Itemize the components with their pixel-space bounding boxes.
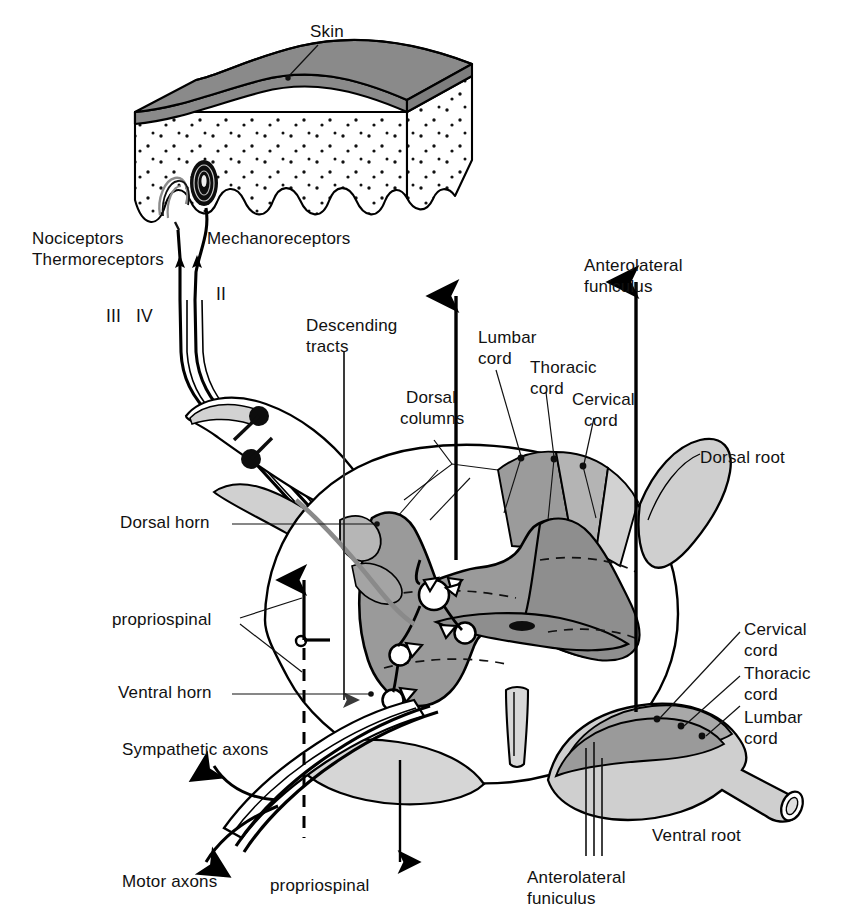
- label-cervical-cord-right-2: cord: [744, 641, 778, 661]
- label-lumbar-cord-top-1: Lumbar: [478, 328, 537, 348]
- label-fiber-class-iv: IV: [136, 306, 153, 327]
- label-ventral-horn: Ventral horn: [118, 683, 212, 703]
- label-descending-tracts-2: tracts: [306, 337, 349, 357]
- label-thoracic-cord-right-1: Thoracic: [744, 664, 811, 684]
- label-descending-tracts-1: Descending: [306, 316, 397, 336]
- label-mechanoreceptors: Mechanoreceptors: [207, 229, 351, 249]
- label-dorsal-columns-1: Dorsal: [406, 388, 456, 408]
- label-thoracic-cord-top-2: cord: [530, 379, 564, 399]
- label-sympathetic-axons: Sympathetic axons: [122, 740, 269, 760]
- label-thoracic-cord-right-2: cord: [744, 685, 778, 705]
- root-dot-cervical: [654, 716, 661, 723]
- label-skin: Skin: [310, 22, 344, 42]
- figure-root: Skin Nociceptors Thermoreceptors Mechano…: [0, 0, 842, 922]
- label-thermoreceptors: Thermoreceptors: [32, 250, 164, 270]
- label-anterolateral-funiculus-top-1: Anterolateral: [584, 256, 683, 276]
- ventral-median-fissure: [506, 687, 528, 767]
- label-dorsal-horn: Dorsal horn: [120, 513, 210, 533]
- label-lumbar-cord-top-2: cord: [478, 349, 512, 369]
- central-canal: [509, 621, 535, 631]
- root-dot-thoracic: [678, 723, 685, 730]
- label-ventral-root: Ventral root: [652, 826, 741, 846]
- label-motor-axons: Motor axons: [122, 872, 217, 892]
- skin-block: [135, 40, 472, 230]
- skin-leader-dot: [285, 75, 290, 80]
- label-anterolateral-funiculus-bottom-2: funiculus: [527, 889, 596, 909]
- label-propriospinal-left: propriospinal: [112, 610, 212, 630]
- label-thoracic-cord-top-1: Thoracic: [530, 358, 597, 378]
- label-dorsal-root: Dorsal root: [700, 448, 785, 468]
- label-cervical-cord-top-2: cord: [584, 411, 618, 431]
- mechanoreceptor-corpuscle-icon: [190, 160, 218, 206]
- label-anterolateral-funiculus-bottom-1: Anterolateral: [527, 868, 626, 888]
- label-dorsal-columns-2: columns: [400, 409, 465, 429]
- label-anterolateral-funiculus-top-2: funiculus: [584, 277, 653, 297]
- label-fiber-class-iii: III: [106, 306, 121, 327]
- label-nociceptors: Nociceptors: [32, 229, 124, 249]
- label-cervical-cord-right-1: Cervical: [744, 620, 807, 640]
- label-cervical-cord-top-1: Cervical: [572, 390, 635, 410]
- label-lumbar-cord-right-1: Lumbar: [744, 708, 803, 728]
- root-dot-lumbar: [699, 733, 706, 740]
- label-propriospinal-bottom: propriospinal: [270, 876, 370, 896]
- label-lumbar-cord-right-2: cord: [744, 729, 778, 749]
- label-fiber-class-ii: II: [216, 284, 226, 305]
